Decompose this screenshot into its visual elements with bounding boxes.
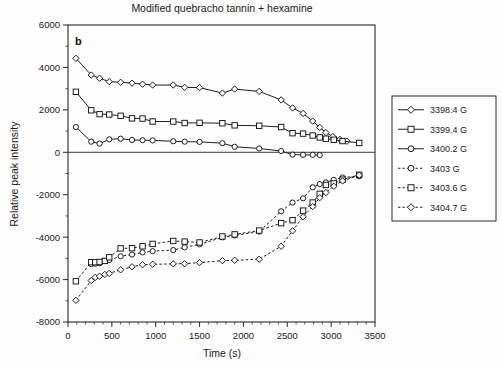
data-point [96, 75, 102, 81]
data-point [97, 111, 102, 116]
data-point [140, 244, 145, 249]
data-point [140, 116, 145, 121]
data-point [106, 78, 112, 84]
data-point [139, 262, 145, 268]
data-point [171, 139, 176, 144]
data-point [279, 209, 284, 214]
data-point [323, 136, 328, 141]
data-point [331, 137, 336, 142]
y-tick-label: 4000 [39, 62, 60, 73]
x-tick-label: 1000 [145, 330, 166, 341]
data-point [289, 105, 295, 111]
data-point [129, 264, 135, 270]
data-point [317, 182, 322, 187]
y-tick-label: 2000 [39, 104, 60, 115]
data-point [170, 261, 176, 267]
panel-label-b: b [75, 35, 82, 47]
data-point [256, 256, 262, 262]
data-point [149, 261, 155, 267]
data-series-group [73, 55, 363, 303]
data-point [73, 124, 78, 129]
data-point [196, 259, 202, 265]
legend-marker-sample [408, 165, 414, 171]
x-tick-label: 2000 [233, 330, 254, 341]
series-3403-g [89, 174, 362, 267]
data-point [97, 141, 102, 146]
data-point [182, 120, 187, 125]
panel-label-group: b [75, 35, 82, 47]
data-point [219, 258, 225, 264]
legend-label: 3399.4 G [430, 125, 467, 135]
data-point [231, 257, 237, 263]
data-point [257, 228, 262, 233]
x-tick-label: 0 [65, 330, 70, 341]
data-point [300, 196, 305, 201]
x-tick-label: 2500 [277, 330, 298, 341]
data-point [117, 79, 123, 85]
data-point [257, 123, 262, 128]
data-point [317, 135, 322, 140]
y-axis-title: Relative peak intensity [8, 121, 20, 227]
plot-area-border [68, 25, 375, 322]
data-point [181, 84, 187, 90]
y-axis-ticks: -8000-6000-4000-20000200040006000 [36, 19, 68, 327]
y-tick-label: 0 [55, 147, 60, 158]
data-point [107, 112, 112, 117]
legend-label: 3403.6 G [430, 183, 467, 193]
data-point [232, 232, 237, 237]
data-point [118, 113, 123, 118]
series-path [76, 58, 347, 141]
x-tick-label: 500 [104, 330, 120, 341]
data-point [220, 234, 225, 239]
x-tick-label: 1500 [189, 330, 210, 341]
y-tick-label: -8000 [36, 316, 60, 327]
chart-legend: 3398.4 G3399.4 G3400.2 G3403 G3403.6 G34… [392, 96, 496, 221]
data-point [220, 141, 225, 146]
data-point [340, 138, 345, 143]
legend-marker-sample [408, 146, 414, 152]
data-point [232, 123, 237, 128]
series-3398-4-g [73, 55, 350, 144]
legend-label: 3398.4 G [430, 105, 467, 115]
y-tick-label: -2000 [36, 189, 60, 200]
y-tick-label: -4000 [36, 232, 60, 243]
data-point [181, 260, 187, 266]
data-point [310, 152, 315, 157]
data-point [310, 133, 315, 138]
data-point [300, 208, 305, 213]
data-point [140, 138, 145, 143]
legend-label: 3400.2 G [430, 144, 467, 154]
data-point [300, 152, 305, 157]
data-point [231, 86, 237, 92]
data-point [290, 130, 295, 135]
data-point [89, 139, 94, 144]
data-point [256, 88, 262, 94]
data-point [323, 182, 328, 187]
data-point [129, 80, 135, 86]
data-point [182, 245, 187, 250]
data-point [118, 136, 123, 141]
data-point [182, 139, 187, 144]
data-point [150, 241, 155, 246]
data-point [300, 131, 305, 136]
data-point [129, 116, 134, 121]
legend-label: 3404.7 G [430, 203, 467, 213]
data-point [310, 185, 315, 190]
data-point [197, 120, 202, 125]
data-point [278, 124, 283, 129]
legend-marker-sample [408, 126, 414, 132]
figure-page: Modified quebracho tannin + hexamine 050… [0, 0, 501, 369]
data-point [197, 139, 202, 144]
data-point [73, 89, 78, 94]
data-point [97, 259, 102, 264]
data-point [197, 240, 202, 245]
data-point [196, 84, 202, 90]
data-point [150, 138, 155, 143]
data-point [279, 148, 284, 153]
data-point [89, 108, 94, 113]
data-point [171, 238, 176, 243]
x-tick-label: 3000 [321, 330, 342, 341]
x-axis-ticks: 0500100015002000250030003500 [65, 322, 385, 341]
series-3403-6-g [73, 172, 362, 284]
data-point [170, 82, 176, 88]
